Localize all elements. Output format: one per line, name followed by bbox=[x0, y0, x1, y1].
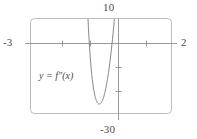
y-max-label: 10 bbox=[103, 2, 114, 13]
viewport-frame bbox=[31, 19, 172, 114]
x-max-label: 2 bbox=[181, 37, 187, 48]
y-min-label: -30 bbox=[100, 124, 115, 135]
x-min-label: -3 bbox=[3, 37, 13, 48]
plot-canvas bbox=[0, 0, 197, 139]
graph-figure: 10 -30 -3 2 y = f″(x) bbox=[0, 0, 197, 139]
curve-equation-label: y = f″(x) bbox=[39, 70, 73, 81]
